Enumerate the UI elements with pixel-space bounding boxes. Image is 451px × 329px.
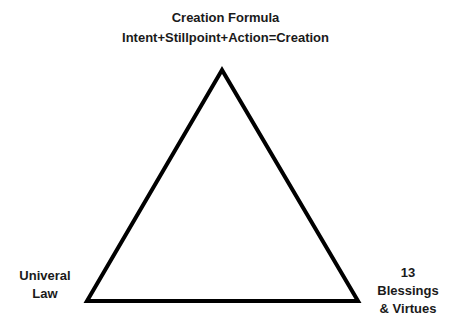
left-label-line2: Law: [10, 285, 80, 303]
right-label-line2: Blessings: [368, 282, 448, 300]
right-vertex-label: 13 Blessings & Virtues: [368, 264, 448, 318]
left-label-line1: Univeral: [10, 267, 80, 285]
left-vertex-label: Univeral Law: [10, 267, 80, 303]
right-label-line1: 13: [368, 264, 448, 282]
right-label-line3: & Virtues: [368, 300, 448, 318]
